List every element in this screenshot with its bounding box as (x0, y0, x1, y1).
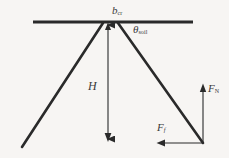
breach-width-subscript: cr (118, 10, 123, 16)
figure-container: bcr θsoil H FN Ff (0, 0, 229, 158)
normal-force-symbol: F (208, 82, 215, 94)
normal-force-subscript: N (215, 88, 219, 94)
label-critical-breach-width: bcr (112, 5, 122, 16)
depth-symbol: H (88, 79, 97, 93)
label-normal-force: FN (208, 83, 219, 94)
depth-arrow-head-top (105, 23, 111, 31)
friction-force-symbol: F (157, 121, 164, 133)
label-friction-force: Ff (157, 122, 166, 134)
scour-hole-diagram (0, 0, 229, 158)
label-soil-angle: θsoil (133, 24, 148, 35)
label-scour-depth: H (88, 80, 97, 92)
friction-force-subscript: f (164, 126, 166, 133)
depth-arrow-head-bottom (105, 133, 112, 142)
normal-force-arrow-head (200, 84, 206, 93)
friction-force-arrow-head (157, 140, 166, 147)
angle-subscript: soil (138, 29, 147, 35)
